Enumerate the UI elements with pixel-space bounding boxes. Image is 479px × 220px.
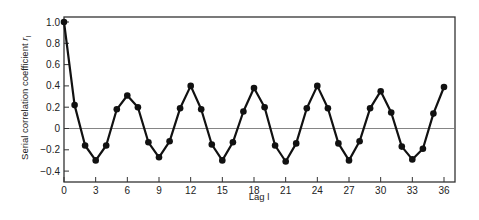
- y-tick-label: 0.4: [46, 80, 60, 91]
- data-point-marker: [82, 142, 89, 149]
- data-point-marker: [61, 19, 68, 26]
- y-tick-label: 0.8: [46, 38, 60, 49]
- data-point-marker: [209, 141, 216, 148]
- data-point-marker: [92, 157, 99, 164]
- data-point-marker: [304, 105, 311, 112]
- data-point-marker: [367, 105, 374, 112]
- x-tick-label: 33: [407, 185, 419, 196]
- data-point-marker: [420, 145, 427, 152]
- data-point-marker: [240, 108, 247, 115]
- data-point-marker: [103, 142, 110, 149]
- data-point-marker: [124, 92, 131, 99]
- x-tick-label: 24: [312, 185, 324, 196]
- data-point-marker: [272, 142, 279, 149]
- data-point-marker: [293, 140, 300, 147]
- x-tick-label: 15: [217, 185, 229, 196]
- x-tick-label: 6: [125, 185, 131, 196]
- data-point-marker: [377, 88, 384, 95]
- data-point-marker: [430, 110, 437, 117]
- y-tick-label: −0.4: [40, 166, 60, 177]
- data-point-marker: [198, 106, 205, 113]
- data-point-marker: [156, 154, 163, 161]
- x-tick-label: 12: [185, 185, 197, 196]
- y-tick-label: −0.2: [40, 144, 60, 155]
- y-tick-label: 0.2: [46, 102, 60, 113]
- y-axis-label: Serial correlation coefficient rl: [19, 36, 32, 160]
- y-axis-label-main: Serial correlation coefficient: [19, 41, 30, 160]
- data-point-marker: [325, 105, 332, 112]
- data-point-marker: [388, 109, 395, 116]
- y-tick-label: 0: [54, 123, 60, 134]
- data-point-marker: [251, 85, 258, 92]
- data-point-marker: [135, 104, 142, 111]
- x-tick-label: 9: [156, 185, 162, 196]
- y-axis-label-subscript: l: [25, 36, 32, 38]
- x-tick-label: 36: [438, 185, 450, 196]
- x-tick-label: 0: [61, 185, 67, 196]
- data-point-marker: [230, 139, 237, 146]
- x-axis-label: Lag l: [249, 191, 270, 202]
- x-tick-label: 27: [343, 185, 355, 196]
- data-point-marker: [166, 138, 173, 145]
- x-tick-label: 21: [280, 185, 292, 196]
- data-point-marker: [356, 138, 363, 145]
- data-series: [61, 19, 448, 165]
- data-point-marker: [177, 105, 184, 112]
- x-tick-label: 3: [93, 185, 99, 196]
- data-point-marker: [399, 143, 406, 150]
- data-point-marker: [145, 139, 152, 146]
- data-point-marker: [346, 157, 353, 164]
- series-line: [64, 22, 444, 162]
- data-point-marker: [71, 102, 78, 109]
- data-point-marker: [187, 83, 194, 90]
- x-tick-label: 30: [375, 185, 387, 196]
- data-point-marker: [219, 157, 226, 164]
- data-point-marker: [314, 83, 321, 90]
- y-axis-ticks: 1.00.80.60.40.20−0.2−0.4: [40, 17, 69, 177]
- data-point-marker: [114, 106, 121, 113]
- data-point-marker: [441, 84, 448, 91]
- data-point-marker: [261, 104, 268, 111]
- y-tick-label: 0.6: [46, 59, 60, 70]
- data-point-marker: [335, 140, 342, 147]
- correlogram-chart: 1.00.80.60.40.20−0.2−0.4 036912151821242…: [0, 0, 479, 220]
- y-tick-label: 1.0: [46, 17, 60, 28]
- data-point-marker: [282, 158, 289, 165]
- data-point-marker: [409, 156, 416, 163]
